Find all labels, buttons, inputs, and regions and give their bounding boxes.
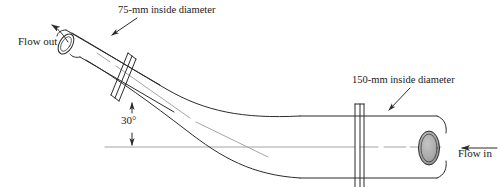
- leader-75mm: [112, 18, 137, 35]
- leader-150mm: [389, 88, 410, 110]
- inlet-diameter-label: 150-mm inside diameter: [352, 75, 455, 86]
- outlet-pipe-75mm: [57, 30, 174, 112]
- pipe-bend-drawing: [0, 0, 501, 187]
- flow-out-label: Flow out: [18, 36, 57, 47]
- inlet-opening-ellipse: [419, 131, 440, 165]
- bend-angle-label: 30°: [121, 115, 136, 126]
- flow-in-label: Flow in: [458, 148, 492, 159]
- pipe-bend-figure: 75-mm inside diameter 150-mm inside diam…: [0, 0, 501, 187]
- bend-axis-centerline: [97, 53, 268, 157]
- outlet-diameter-label: 75-mm inside diameter: [118, 5, 215, 16]
